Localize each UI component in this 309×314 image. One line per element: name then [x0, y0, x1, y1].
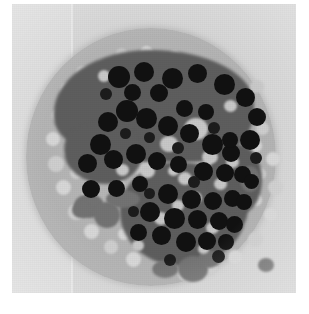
nucleus-27: [158, 184, 178, 204]
nucleus-4: [214, 74, 235, 95]
nucleus-small-10: [250, 152, 262, 164]
gray-blob-7: [72, 202, 90, 218]
vacuole-15: [248, 232, 263, 247]
vacuole-5: [48, 156, 64, 172]
vacuole-8: [84, 224, 99, 239]
nucleus-47: [124, 84, 141, 101]
nucleus-44: [176, 100, 193, 117]
nucleus-42: [244, 174, 259, 189]
nucleus-32: [164, 208, 185, 229]
vacuole-6: [56, 180, 71, 195]
nucleus-28: [182, 190, 201, 209]
nucleus-14: [98, 112, 118, 132]
nucleus-7: [240, 130, 260, 150]
nucleus-13: [116, 100, 138, 122]
nucleus-16: [104, 150, 123, 169]
gray-blob-8: [258, 258, 274, 272]
nucleus-small-9: [128, 206, 139, 217]
nucleus-9: [202, 134, 223, 155]
image-field: [12, 4, 296, 293]
nucleus-6: [248, 108, 266, 126]
nucleus-small-2: [208, 122, 220, 134]
vacuole-17: [268, 180, 283, 195]
nucleus-21: [216, 164, 234, 182]
nucleus-46: [150, 84, 168, 102]
nucleus-12: [136, 108, 157, 129]
vacuole-16: [264, 208, 277, 221]
nucleus-40: [130, 224, 147, 241]
nucleus-small-6: [144, 188, 155, 199]
nucleus-small-4: [144, 132, 155, 143]
vacuole-18: [266, 152, 280, 166]
nucleus-18: [148, 152, 166, 170]
nucleus-35: [226, 216, 243, 233]
nucleus-39: [218, 234, 234, 250]
nucleus-25: [108, 180, 125, 197]
nucleus-5: [236, 88, 255, 107]
nucleus-3: [188, 64, 207, 83]
nucleus-41: [236, 194, 252, 210]
vacuole-10: [126, 252, 141, 267]
highlight-hole-15: [132, 240, 144, 251]
nucleus-23: [78, 154, 97, 173]
nucleus-small-7: [212, 250, 225, 263]
nucleus-small-8: [164, 254, 176, 266]
nucleus-38: [198, 232, 216, 250]
nucleus-34: [210, 212, 228, 230]
nucleus-29: [204, 192, 222, 210]
nucleus-1: [134, 62, 154, 82]
highlight-hole-11: [224, 100, 237, 112]
image-viewer: Circular pale-gray specimen disk on a li…: [0, 0, 309, 314]
vacuole-9: [104, 240, 118, 254]
nucleus-31: [140, 202, 160, 222]
nucleus-19: [170, 156, 187, 173]
vacuole-4: [46, 132, 60, 146]
nucleus-17: [126, 144, 146, 164]
nucleus-45: [198, 104, 214, 120]
nucleus-37: [176, 232, 196, 252]
nucleus-small-0: [100, 88, 112, 100]
nucleus-36: [152, 226, 171, 245]
nucleus-43: [222, 132, 238, 148]
nucleus-24: [82, 180, 100, 198]
nucleus-11: [158, 116, 178, 136]
nucleus-small-1: [172, 142, 184, 154]
nucleus-10: [180, 124, 199, 143]
nucleus-small-5: [188, 176, 200, 188]
vacuole-14: [228, 250, 242, 264]
nucleus-small-3: [120, 128, 131, 139]
nucleus-33: [188, 210, 207, 229]
